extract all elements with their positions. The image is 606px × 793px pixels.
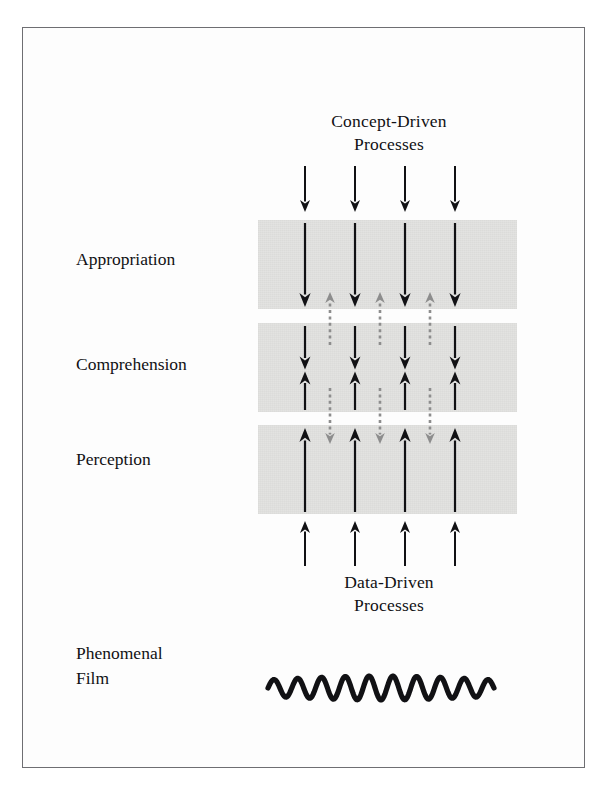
phenomenal-film-wave <box>262 658 502 712</box>
concept-driven-title: Concept-Driven Processes <box>255 110 523 156</box>
band-comprehension <box>258 323 517 412</box>
phenomenal-film-label: Phenomenal Film <box>76 641 256 691</box>
band-label-appropriation: Appropriation <box>76 248 256 270</box>
figure-root: Concept-Driven Processes Data-Driven Pro… <box>0 0 606 793</box>
band-label-perception: Perception <box>76 448 256 470</box>
band-appropriation <box>258 220 517 309</box>
band-label-comprehension: Comprehension <box>76 353 256 375</box>
band-perception <box>258 425 517 514</box>
data-driven-title: Data-Driven Processes <box>255 571 523 617</box>
